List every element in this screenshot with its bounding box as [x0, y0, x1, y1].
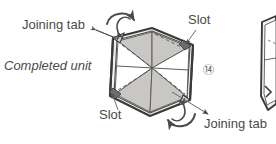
label-completed-unit: Completed unit — [4, 59, 91, 72]
label-slot-bottom: Slot — [99, 108, 121, 121]
completed-unit-shape — [109, 28, 193, 116]
label-joining-tab-bottom: Joining tab — [204, 117, 267, 130]
step-number-badge: ⑭ — [203, 61, 214, 77]
label-joining-tab-top: Joining tab — [22, 18, 85, 31]
label-slot-top: Slot — [188, 13, 210, 26]
partial-next-figure — [261, 16, 276, 110]
